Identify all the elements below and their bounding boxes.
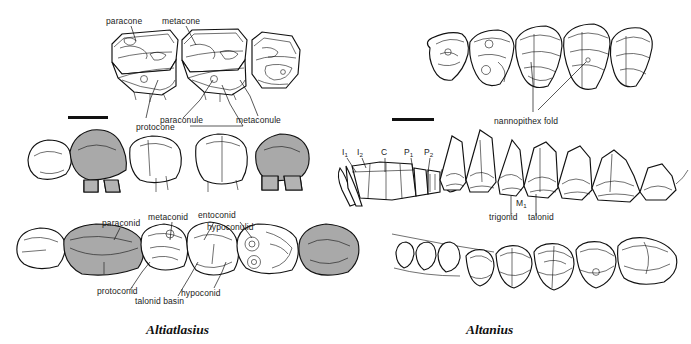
right-lower-occlusal-drawing [0, 0, 691, 344]
occ-tooth-4 [576, 242, 616, 288]
anterior-stippled-teeth [394, 242, 460, 276]
occ-tooth-2 [496, 246, 532, 288]
figure-canvas: paracone metacone paraconule protocone m… [0, 0, 691, 344]
occ-tooth-3 [534, 244, 574, 290]
occ-tooth-5 [618, 238, 677, 285]
taxon-name-left: Altiatlasius [146, 322, 209, 338]
occ-tooth-1 [466, 250, 494, 286]
taxon-name-right: Altanius [466, 322, 513, 338]
